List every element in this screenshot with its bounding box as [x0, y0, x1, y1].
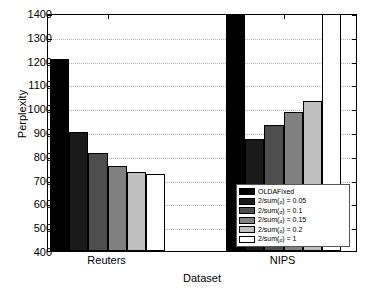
bar-chart-figure: Perplexity 40050060070080090010001100120…: [0, 0, 368, 292]
y-tick-mark: [352, 182, 356, 183]
legend-swatch: [239, 188, 255, 195]
legend-item[interactable]: 2/sum(α) = 0.15: [239, 216, 347, 226]
x-tick-mark: [108, 247, 109, 251]
legend-label: 2/sum(α) = 0.15: [258, 216, 306, 224]
chart-legend: OLDAFixed2/sum(α) = 0.052/sum(α) = 0.12/…: [236, 184, 350, 247]
legend-label: 2/sum(α) = 0.1: [258, 207, 302, 215]
x-axis-title: Dataset: [47, 272, 357, 284]
y-tick-mark: [352, 110, 356, 111]
legend-label: 2/sum(α) = 0.05: [258, 197, 306, 205]
y-tick-label: 1100: [8, 80, 52, 91]
bar: [108, 166, 127, 251]
legend-label: 2/sum(α) = 1: [258, 235, 297, 243]
y-tick-mark: [352, 229, 356, 230]
y-tick-mark: [352, 86, 356, 87]
gridline: [48, 63, 356, 64]
y-tick-label: 700: [8, 175, 52, 186]
y-tick-label: 1000: [8, 104, 52, 115]
y-tick-mark: [352, 39, 356, 40]
y-tick-mark: [352, 63, 356, 64]
bar: [146, 174, 165, 251]
legend-label: OLDAFixed: [258, 188, 294, 195]
legend-swatch: [239, 236, 255, 243]
gridline: [48, 39, 356, 40]
y-tick-label: 1300: [8, 32, 52, 43]
bar: [69, 132, 88, 251]
y-tick-label: 800: [8, 151, 52, 162]
x-tick-mark: [284, 15, 285, 19]
y-tick-mark: [352, 158, 356, 159]
y-tick-mark: [352, 205, 356, 206]
gridline: [48, 86, 356, 87]
bar: [50, 59, 69, 251]
y-tick-label: 900: [8, 128, 52, 139]
bar: [127, 172, 146, 251]
legend-item[interactable]: 2/sum(α) = 0.2: [239, 225, 347, 235]
y-tick-mark: [352, 134, 356, 135]
x-tick-label: NIPS: [270, 254, 296, 266]
y-tick-mark: [352, 15, 356, 16]
y-tick-label: 600: [8, 199, 52, 210]
legend-item[interactable]: 2/sum(α) = 0.05: [239, 197, 347, 207]
legend-item[interactable]: 2/sum(α) = 0.1: [239, 206, 347, 216]
legend-item[interactable]: 2/sum(α) = 1: [239, 235, 347, 245]
x-tick-mark: [284, 247, 285, 251]
legend-label: 2/sum(α) = 0.2: [258, 226, 302, 234]
x-tick-mark: [108, 15, 109, 19]
y-tick-label: 1200: [8, 56, 52, 67]
legend-swatch: [239, 217, 255, 224]
y-tick-label: 400: [8, 247, 52, 258]
bar: [88, 153, 107, 251]
legend-swatch: [239, 198, 255, 205]
legend-item[interactable]: OLDAFixed: [239, 187, 347, 197]
x-tick-label: Reuters: [87, 254, 126, 266]
y-tick-label: 1400: [8, 9, 52, 20]
legend-swatch: [239, 207, 255, 214]
legend-swatch: [239, 226, 255, 233]
y-tick-label: 500: [8, 223, 52, 234]
